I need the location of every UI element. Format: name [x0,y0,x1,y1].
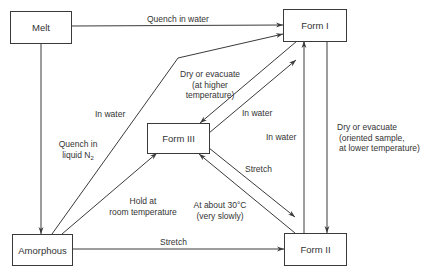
label-dry-higher-temp: Dry or evacuate (at higher temperature) [170,69,250,101]
label-hold-room-temp: Hold at room temperature [103,196,183,217]
label-in-water-diagonal: In water [242,108,272,119]
label-quench-liquid-n2: Quench in liquid N2 [53,139,103,163]
label-dry-lower-temp: Dry or evacuate (oriented sample, at low… [336,122,420,154]
label-stretch-bottom: Stretch [160,237,187,248]
arrow-amorphous-to-form3 [62,153,157,234]
label-quench-liquid-n2-line1: Quench in [53,139,103,150]
label-in-water-vertical: In water [266,132,296,143]
label-quench-in-water: Quench in water [147,14,209,25]
label-in-water-left: In water [95,109,125,120]
node-form-3: Form III [147,123,210,154]
phase-transition-diagram: Melt Form I Form III Form II Amorphous Q… [0,0,435,275]
node-amorphous: Amorphous [12,234,73,266]
node-form-3-label: Form III [162,133,195,144]
node-form-1: Form I [283,9,347,42]
node-form-2: Form II [284,233,347,266]
arrow-melt-to-form1 [71,25,283,26]
label-stretch-diagonal: Stretch [245,164,272,175]
node-amorphous-label: Amorphous [18,245,67,256]
node-melt-label: Melt [32,22,50,33]
node-melt: Melt [10,11,72,44]
label-quench-liquid-n2-line2: liquid N2 [53,150,103,164]
node-form-1-label: Form I [301,20,328,31]
label-about-30c: At about 30°C (very slowly) [187,200,253,221]
node-form-2-label: Form II [300,244,330,255]
